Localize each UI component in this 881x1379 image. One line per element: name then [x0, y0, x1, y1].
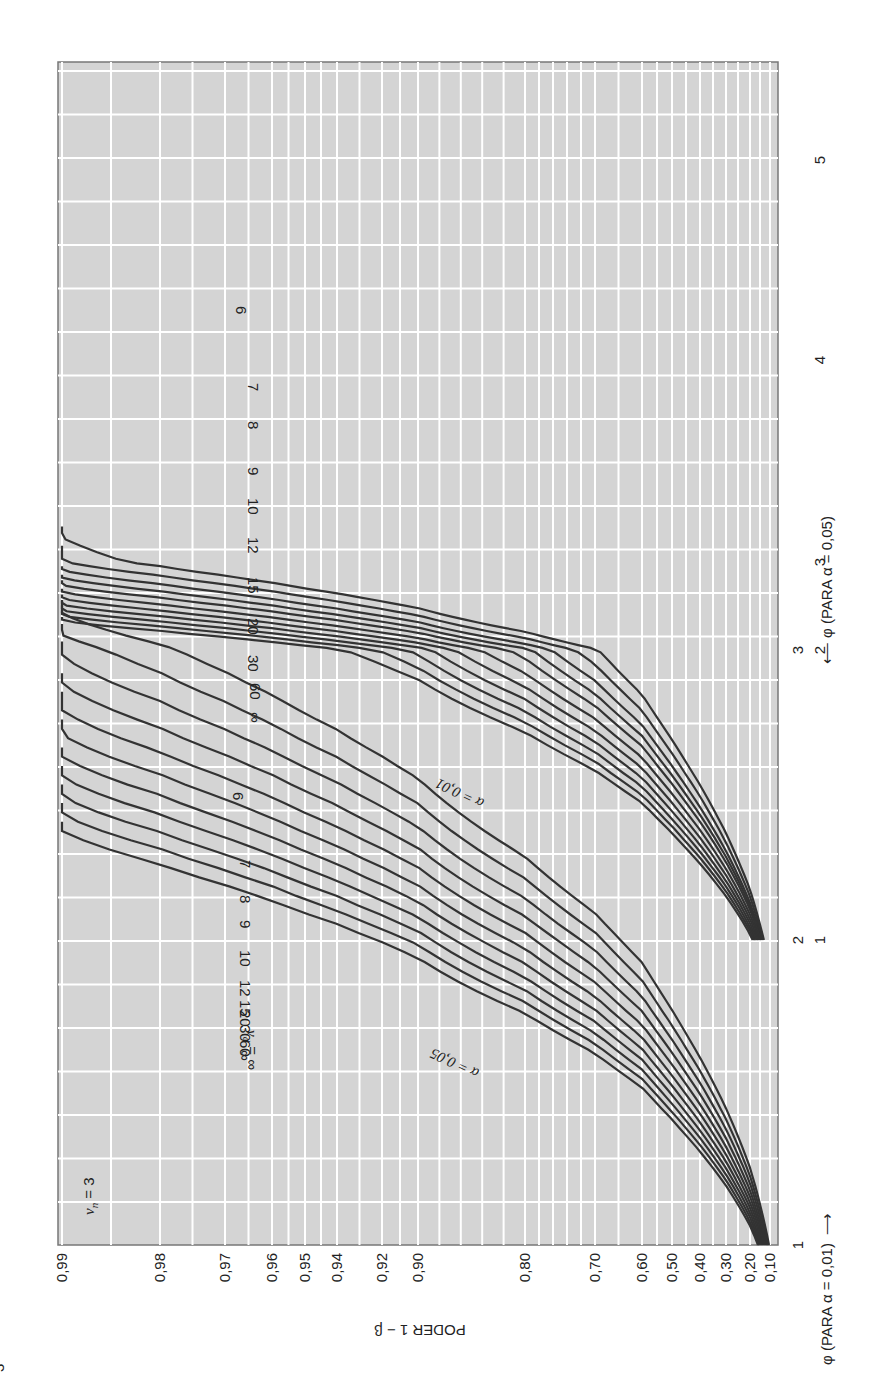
power-tick-0-97: 0,97	[216, 1253, 233, 1282]
power-tick-0-70: 0,70	[586, 1253, 603, 1282]
curve-label-alpha005-8: 8	[237, 895, 254, 903]
power-tick-0-90: 0,90	[409, 1253, 426, 1282]
curve-label-alpha001-7: 7	[245, 383, 262, 391]
phi-axis-title-alpha-001: φ (PARA α = 0,01)⟶	[818, 1213, 835, 1365]
curve-label-alpha001-15: 15	[245, 577, 262, 594]
phi-tick-alpha001-3: 3	[789, 646, 806, 654]
power-tick-0-95: 0,95	[296, 1253, 313, 1282]
page-mark: 3	[0, 1364, 7, 1372]
phi-tick-alpha005-5: 5	[811, 156, 828, 164]
phi-axis-title-alpha-005: ⟵φ (PARA α = 0,05)	[818, 516, 835, 664]
phi-tick-alpha005-4: 4	[811, 356, 828, 364]
curve-label-alpha005-6: 6	[230, 792, 247, 800]
curve-label-alpha001-10: 10	[245, 498, 262, 515]
curve-label-alpha001-30: 30	[245, 655, 262, 672]
phi-tick-alpha001-2: 2	[789, 936, 806, 944]
curve-label-alpha001-60: 60	[247, 683, 264, 700]
curve-label-alpha005-10: 10	[237, 950, 254, 967]
phi-tick-alpha001-1: 1	[789, 1241, 806, 1249]
curve-label-alpha001-9: 9	[245, 467, 262, 475]
curve-label-alpha001-12: 12	[245, 537, 262, 554]
curve-label-alpha001-8: 8	[245, 421, 262, 429]
curve-label-alpha001-6: 6	[233, 306, 250, 314]
power-tick-labels: 0,990,980,970,960,950,940,920,900,800,70…	[53, 1253, 778, 1282]
power-tick-0-99: 0,99	[53, 1253, 70, 1282]
power-chart: 6789101215203060∞6789101215203060∞ 0,990…	[0, 0, 881, 1379]
power-tick-0-30: 0,30	[717, 1253, 734, 1282]
curve-label-alpha001-20: 20	[245, 618, 262, 635]
power-tick-0-94: 0,94	[328, 1253, 345, 1282]
curve-label-alpha001-∞: ∞	[247, 712, 264, 723]
power-tick-0-10: 0,10	[761, 1253, 778, 1282]
curve-label-alpha005-9: 9	[237, 920, 254, 928]
power-tick-0-96: 0,96	[263, 1253, 280, 1282]
power-tick-0-50: 0,50	[663, 1253, 680, 1282]
curve-label-alpha005-7: 7	[237, 860, 254, 868]
curve-label-alpha005-12: 12	[237, 980, 254, 997]
power-chart-page: 6789101215203060∞6789101215203060∞ 0,990…	[0, 0, 881, 1379]
y-axis-title: PODER 1 − β	[374, 1322, 466, 1339]
power-tick-0-60: 0,60	[633, 1253, 650, 1282]
phi-tick-alpha005-1: 1	[811, 936, 828, 944]
phi-tick-labels: 12312345	[789, 156, 828, 1249]
power-tick-0-80: 0,80	[516, 1253, 533, 1282]
power-tick-0-20: 0,20	[741, 1253, 758, 1282]
power-tick-0-98: 0,98	[151, 1253, 168, 1282]
power-tick-0-40: 0,40	[691, 1253, 708, 1282]
power-tick-0-92: 0,92	[373, 1253, 390, 1282]
